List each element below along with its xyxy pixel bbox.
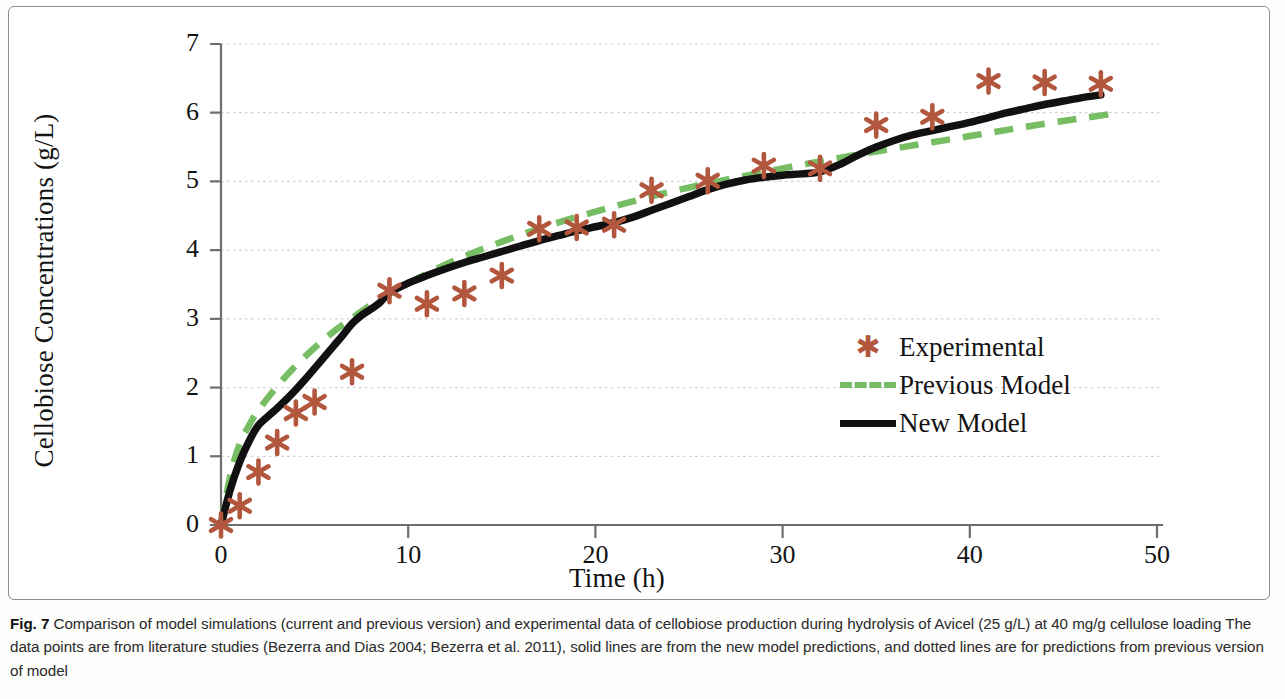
legend-item-previous-model: Previous Model [839,367,1169,403]
solid-line-icon [839,408,897,438]
data-point [286,402,306,425]
chart-legend: ✱ Experimental Previous Model New Model [839,329,1169,443]
data-point [1091,72,1111,95]
data-point [305,391,325,414]
axis-lines [210,44,1163,538]
data-point [922,105,942,128]
data-point [1035,71,1055,94]
data-point [267,431,287,454]
data-point [342,360,362,383]
legend-item-new-model: New Model [839,405,1169,441]
data-point [230,494,250,517]
series-new-model [221,95,1101,525]
dashed-line-icon [839,370,897,400]
legend-label-experimental: Experimental [897,332,1044,363]
chart-plot-area [9,7,1270,600]
chart-panel: Cellobiose Concentrations (g/L) Time (h)… [8,6,1270,600]
legend-label-new-model: New Model [897,408,1027,439]
legend-item-experimental: ✱ Experimental [839,329,1169,365]
data-point [979,70,999,93]
asterisk-marker-icon: ✱ [839,332,897,362]
figure-number: Fig. 7 [10,615,49,632]
data-point [642,179,662,202]
data-point [417,292,437,315]
data-point [492,264,512,287]
data-point [454,282,474,305]
data-point [248,461,268,484]
series-experimental [211,70,1111,537]
figure-container: Cellobiose Concentrations (g/L) Time (h)… [0,0,1285,699]
data-point [866,114,886,137]
figure-caption-text: Comparison of model simulations (current… [10,615,1264,679]
figure-caption: Fig. 7 Comparison of model simulations (… [10,612,1268,682]
legend-label-previous-model: Previous Model [897,370,1071,401]
